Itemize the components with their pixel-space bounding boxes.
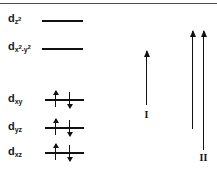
orbital-label-dxz-sub: xz: [15, 151, 22, 158]
transition-arrow-II-b: [203, 31, 204, 150]
energy-level-dz2: [42, 20, 83, 22]
orbital-label-dx2y2-sup2: 2: [27, 44, 30, 50]
orbital-label-dyz-sub: yz: [15, 126, 22, 133]
arrowhead-down-icon: [67, 132, 73, 137]
energy-level-dxy: [45, 99, 84, 101]
electron-dyz-down: [69, 120, 70, 136]
energy-level-dxz: [45, 152, 84, 154]
orbital-label-dxy-base: d: [8, 92, 15, 104]
orbital-label-dxy: dxy: [8, 93, 22, 104]
orbital-label-dx2y2-base: d: [8, 40, 15, 52]
arrowhead-up-icon: [53, 118, 59, 123]
arrowhead-down-icon: [67, 157, 73, 162]
electron-dxy-down: [69, 92, 70, 108]
orbital-label-dxy-sub: xy: [15, 98, 22, 105]
orbital-label-dz2: dz2: [8, 13, 21, 24]
electron-dxz-up: [55, 144, 56, 160]
orbital-label-dx2y2-sup: 2: [18, 44, 21, 50]
orbital-label-dxz-base: d: [8, 145, 15, 157]
orbital-diagram-figure: dz2 dx2-y2 dxy dyz dxz I: [0, 0, 217, 174]
transition-arrow-II-a: [192, 31, 193, 129]
arrowhead-up-icon: [190, 30, 196, 37]
electron-dxy-up: [55, 91, 56, 107]
orbital-label-dz2-sup: 2: [18, 16, 21, 22]
orbital-label-dyz-base: d: [8, 120, 15, 132]
electron-dxz-down: [69, 145, 70, 161]
electron-dyz-up: [55, 119, 56, 135]
arrowhead-up-icon: [53, 143, 59, 148]
arrowhead-up-icon: [201, 30, 207, 37]
top-divider-rule: [0, 3, 217, 4]
energy-level-dx2y2: [42, 48, 83, 50]
transition-label-I: I: [140, 110, 153, 120]
orbital-label-dz2-base: d: [8, 12, 15, 24]
orbital-label-dyz: dyz: [8, 121, 22, 132]
arrowhead-up-icon: [144, 50, 150, 57]
transition-label-II: II: [196, 153, 211, 163]
arrowhead-up-icon: [53, 90, 59, 95]
orbital-label-dxz: dxz: [8, 146, 22, 157]
transition-arrow-I: [146, 51, 147, 105]
orbital-label-dx2y2: dx2-y2: [8, 41, 31, 52]
arrowhead-down-icon: [67, 104, 73, 109]
energy-level-dyz: [45, 127, 84, 129]
